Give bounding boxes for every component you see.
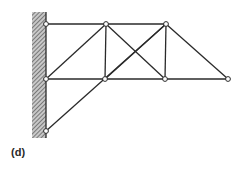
node-E-icon (103, 77, 108, 82)
truss-members (46, 24, 228, 131)
member-CF (165, 24, 166, 79)
node-D-icon (44, 77, 49, 82)
truss-diagram (0, 0, 243, 174)
node-F-icon (163, 77, 168, 82)
node-A-icon (44, 22, 49, 27)
node-C-icon (164, 22, 169, 27)
node-G-icon (226, 77, 231, 82)
wall-hatch (32, 12, 46, 138)
member-BE (105, 24, 106, 79)
node-H-icon (44, 129, 49, 134)
fixed-wall-support (32, 12, 46, 138)
member-CG (166, 24, 228, 79)
member-DB (46, 24, 106, 79)
figure-label: (d) (11, 146, 25, 158)
truss-nodes (44, 22, 231, 134)
node-B-icon (104, 22, 109, 27)
